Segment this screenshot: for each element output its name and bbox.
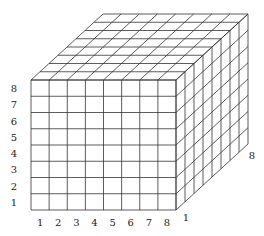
row-label: 5: [11, 132, 17, 143]
column-label: 3: [73, 217, 79, 228]
row-label: 3: [11, 164, 17, 175]
cube-grid-figure: 123456781234567818: [0, 0, 264, 236]
depth-label-start: 1: [183, 212, 189, 223]
column-label: 7: [146, 217, 152, 228]
row-label: 8: [11, 83, 17, 94]
axis-labels: 123456781234567818: [11, 83, 255, 228]
front-face: [31, 80, 176, 210]
column-label: 5: [109, 217, 115, 228]
row-label: 6: [11, 116, 17, 127]
row-label: 4: [11, 148, 17, 159]
cube-diagram: 123456781234567818: [0, 0, 264, 236]
column-label: 8: [164, 217, 170, 228]
column-label: 6: [128, 217, 134, 228]
row-label: 2: [11, 181, 17, 192]
row-label: 7: [11, 99, 17, 110]
right-face: [176, 14, 248, 210]
top-face: [31, 14, 248, 80]
column-label: 1: [37, 217, 43, 228]
column-label: 4: [91, 217, 97, 228]
row-label: 1: [11, 197, 17, 208]
depth-label-end: 8: [249, 150, 255, 161]
column-label: 2: [55, 217, 61, 228]
